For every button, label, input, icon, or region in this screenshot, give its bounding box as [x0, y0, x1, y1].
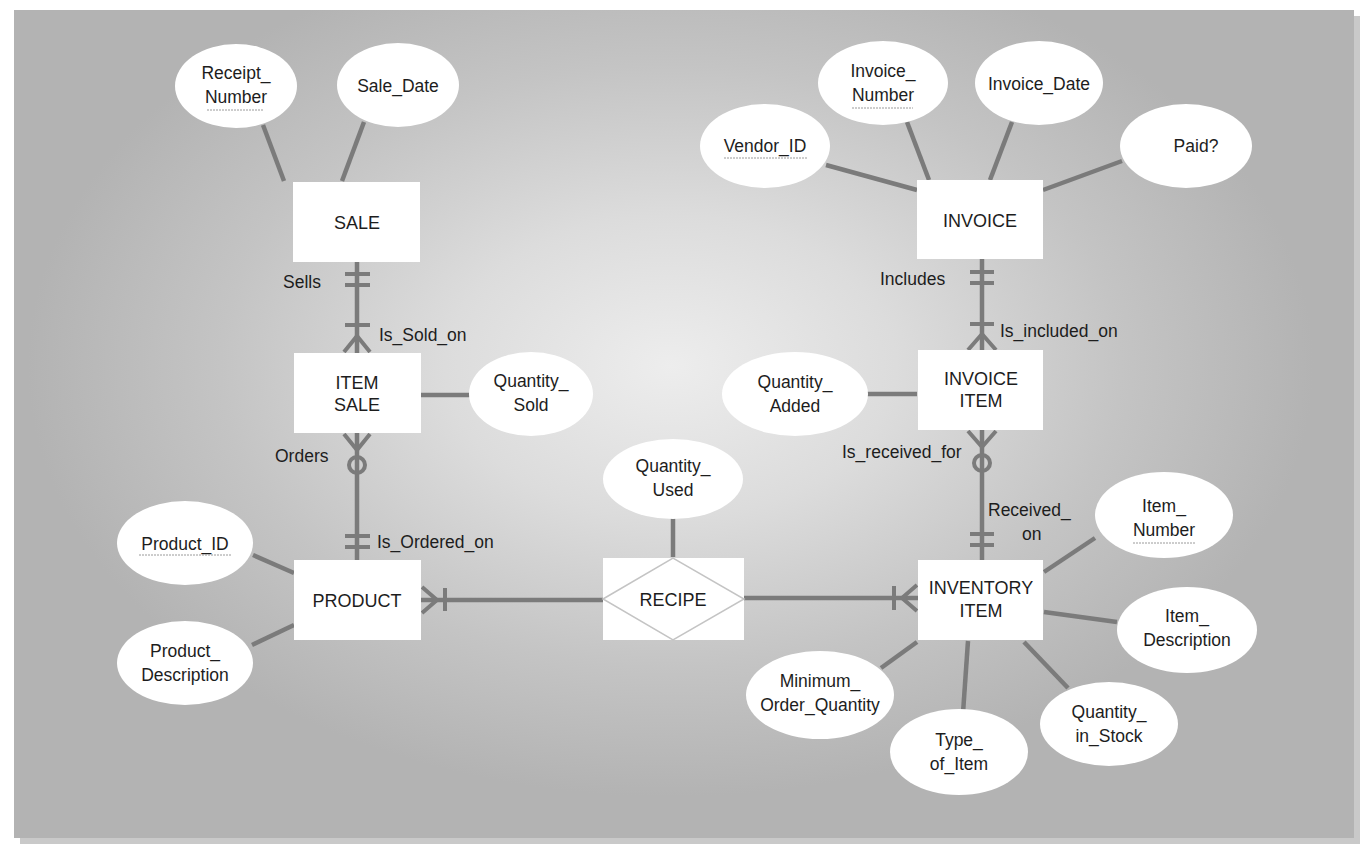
attribute-label-line2: Sold [513, 395, 548, 415]
attribute-paid[interactable]: Paid? [1120, 104, 1252, 188]
entity-label: RECIPE [639, 590, 706, 610]
attribute-label-line1: Type_ [935, 730, 983, 751]
entity-label: PRODUCT [313, 591, 402, 611]
attribute-minimum-order-quantity[interactable]: Minimum_ Order_Quantity [746, 651, 894, 739]
entity-label-line1: ITEM [336, 373, 379, 393]
attribute-quantity-added[interactable]: Quantity_ Added [722, 352, 868, 436]
attribute-label-line1: Receipt_ [201, 63, 270, 84]
attribute-product-id[interactable]: Product_ID [117, 501, 253, 585]
entity-invoice-item[interactable]: INVOICE ITEM [918, 350, 1043, 430]
associative-entity-recipe[interactable]: RECIPE [603, 558, 744, 640]
relationship-label-received-on-line1: Received_ [988, 500, 1071, 521]
entity-label-line1: INVOICE [944, 369, 1018, 389]
relationship-label-orders: Orders [275, 446, 329, 466]
relationship-label-includes: Includes [880, 269, 945, 289]
attribute-quantity-used[interactable]: Quantity_ Used [603, 439, 743, 519]
attribute-quantity-in-stock[interactable]: Quantity_ in_Stock [1040, 682, 1178, 766]
relationship-label-is-ordered-on: Is_Ordered_on [377, 532, 494, 553]
relationship-label-sells: Sells [283, 272, 321, 292]
attribute-item-number[interactable]: Item_ Number [1095, 472, 1233, 558]
attribute-label-line2: Description [141, 665, 229, 685]
attribute-label-line2: in_Stock [1075, 726, 1142, 747]
attribute-label-line2: Added [770, 396, 821, 416]
attribute-label-line1: Item_ [1142, 496, 1186, 517]
attribute-label-line1: Invoice_ [850, 61, 915, 82]
attribute-label-line1: Product_ [150, 641, 220, 662]
attribute-label-line1: Item_ [1165, 606, 1209, 627]
attribute-vendor-id[interactable]: Vendor_ID [700, 104, 830, 188]
attribute-product-description[interactable]: Product_ Description [117, 621, 253, 705]
attribute-label: Paid? [1174, 136, 1219, 156]
attribute-item-description[interactable]: Item_ Description [1117, 587, 1257, 673]
attribute-sale-date[interactable]: Sale_Date [337, 43, 459, 127]
entity-sale[interactable]: SALE [293, 182, 420, 262]
attribute-label-line1: Minimum_ [780, 671, 861, 692]
attribute-label-line2: Number [852, 85, 914, 105]
attribute-label: Vendor_ID [724, 136, 807, 157]
entity-label-line2: SALE [334, 395, 380, 415]
attribute-label: Sale_Date [357, 76, 439, 97]
relationship-label-is-included-on: Is_included_on [1000, 321, 1118, 342]
attribute-receipt-number[interactable]: Receipt_ Number [175, 44, 297, 128]
entity-product[interactable]: PRODUCT [294, 560, 421, 640]
attribute-label-line1: Quantity_ [1072, 702, 1147, 723]
relationship-label-is-sold-on: Is_Sold_on [379, 325, 467, 346]
attribute-label-line2: Number [205, 87, 267, 107]
attribute-invoice-number[interactable]: Invoice_ Number [818, 41, 948, 125]
attribute-label-line2: Order_Quantity [760, 695, 880, 716]
er-diagram: SALE ITEM SALE PRODUCT RECIPE INVOICE IN… [0, 0, 1369, 858]
attribute-label-line2: Used [653, 480, 694, 500]
attribute-invoice-date[interactable]: Invoice_Date [975, 41, 1103, 125]
relationship-label-received-on-line2: on [1022, 524, 1041, 544]
attribute-label-line2: of_Item [930, 754, 988, 775]
entity-invoice[interactable]: INVOICE [917, 180, 1043, 259]
entity-item-sale[interactable]: ITEM SALE [294, 353, 421, 433]
entity-inventory-item[interactable]: INVENTORY ITEM [918, 560, 1043, 640]
attribute-quantity-sold[interactable]: Quantity_ Sold [469, 352, 593, 436]
attribute-label-line2: Number [1133, 520, 1195, 540]
entity-label: INVOICE [943, 211, 1017, 231]
attribute-label-line1: Quantity_ [758, 372, 833, 393]
relationship-label-is-received-for: Is_received_for [842, 442, 962, 463]
attribute-label-line2: Description [1143, 630, 1231, 650]
attribute-label: Invoice_Date [988, 74, 1090, 95]
attribute-type-of-item[interactable]: Type_ of_Item [890, 709, 1028, 795]
attribute-label: Product_ID [141, 534, 229, 555]
entity-label-line2: ITEM [960, 391, 1003, 411]
entity-label-line2: ITEM [960, 601, 1003, 621]
attribute-label-line1: Quantity_ [636, 456, 711, 477]
entity-label: SALE [334, 213, 380, 233]
attribute-label-line1: Quantity_ [494, 371, 569, 392]
entity-label-line1: INVENTORY [929, 578, 1033, 598]
